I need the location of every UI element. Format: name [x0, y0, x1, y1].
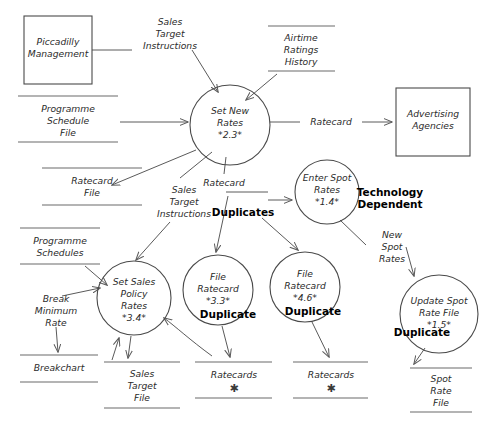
break-minimum-rate-line-2: Minimum [35, 305, 78, 316]
ratecards-right-star-icon: ✱ [326, 382, 335, 395]
set-new-rates-label-line-1: Set New [211, 105, 250, 116]
sales-target-instructions-top-line-2: Target [155, 28, 185, 39]
process-file-ratecard-46[interactable]: File Ratecard *4.6* Duplicate [270, 252, 341, 322]
programme-schedule-file-label-line-1: Programme [41, 103, 95, 114]
break-minimum-rate-line-1: Break [43, 293, 70, 304]
airtime-ratings-history-label-line-1: Airtime [283, 32, 318, 43]
flow-label-sales-target-instructions-top: Sales Target Instructions [143, 16, 197, 51]
flow-label-ratecard-to-agencies: Ratecard [310, 116, 352, 127]
file-ratecard-33-label-line-3: *3.3* [206, 295, 230, 306]
data-store-breakchart[interactable]: Breakchart [20, 355, 98, 382]
flow-enter-spot-rates-down [340, 220, 366, 245]
sales-target-file-label-line-1: Sales [130, 368, 155, 379]
breakchart-label-line-1: Breakchart [34, 362, 85, 373]
sales-target-file-label-line-2: Target [127, 380, 157, 391]
spot-rate-file-label-line-2: Rate [430, 385, 452, 396]
data-store-ratecard-file[interactable]: Ratecard File [42, 168, 142, 205]
flow-duplicates-to-file-ratecard-33 [216, 196, 228, 252]
process-enter-spot-rates[interactable]: Enter Spot Rates *1.4* Technology Depend… [295, 160, 423, 224]
data-store-airtime-ratings-history[interactable]: Airtime Ratings History [268, 26, 335, 71]
dfd-svg: Piccadilly Management Advertising Agenci… [0, 0, 486, 435]
flow-set-sales-policy-to-sales-target-file [128, 336, 131, 358]
programme-schedules-label-line-2: Schedules [36, 247, 83, 258]
enter-spot-rates-label-line-2: Rates [314, 184, 340, 195]
process-update-spot-rate-file[interactable]: Update Spot Rate File *1.5* Duplicate [394, 275, 478, 353]
flow-sales-target-file-to-set-sales-policy [112, 338, 119, 360]
flow-sales-target-instructions-to-set-new-rates [192, 50, 218, 92]
spot-rate-file-label-line-1: Spot [431, 373, 452, 384]
new-spot-rates-line-2: Spot [382, 241, 403, 252]
enter-spot-rates-annotation-line-2: Dependent [357, 198, 422, 210]
set-new-rates-label-line-2: Rates [217, 117, 243, 128]
external-entities: Piccadilly Management Advertising Agenci… [24, 16, 470, 156]
file-ratecard-46-annotation: Duplicate [285, 305, 341, 317]
flow-ratecard-down-stub [224, 157, 226, 174]
flow-sti-mid-to-set-sales-policy [136, 222, 170, 260]
piccadilly-management-label-line-2: Management [28, 48, 89, 59]
flow-airtime-ratings-to-set-new-rates [246, 74, 277, 100]
sales-target-file-label-line-3: File [134, 392, 150, 403]
piccadilly-management-label-line-1: Piccadilly [37, 36, 80, 47]
spot-rate-file-label-line-3: File [433, 397, 449, 408]
advertising-agencies-label-line-1: Advertising [406, 108, 459, 119]
set-sales-policy-rates-label-line-2: Policy [121, 288, 148, 299]
file-ratecard-33-label-line-1: File [210, 271, 226, 282]
new-spot-rates-line-1: New [382, 229, 403, 240]
external-entity-advertising-agencies[interactable]: Advertising Agencies [396, 88, 470, 156]
airtime-ratings-history-label-line-3: History [285, 56, 318, 67]
programme-schedule-file-label-line-2: Schedule [47, 115, 90, 126]
flow-update-spot-rate-file-to-spot-rate-file [414, 348, 425, 364]
ratecards-left-label-line-1: Ratecards [211, 369, 258, 380]
sales-target-instructions-mid-line-3: Instructions [157, 208, 211, 219]
flow-label-ratecard-from-set-new-rates: Ratecard [203, 177, 245, 188]
dfd-canvas: Piccadilly Management Advertising Agenci… [0, 0, 486, 435]
data-store-programme-schedules[interactable]: Programme Schedules [20, 228, 100, 264]
set-sales-policy-rates-label-line-3: Rates [121, 300, 147, 311]
sales-target-instructions-mid-line-1: Sales [172, 184, 197, 195]
external-entity-piccadilly-management[interactable]: Piccadilly Management [24, 16, 92, 84]
file-ratecard-46-label-line-1: File [297, 268, 313, 279]
ratecards-right-label-line-1: Ratecards [308, 369, 355, 380]
file-ratecard-33-annotation: Duplicate [200, 308, 256, 320]
process-set-new-rates[interactable]: Set New Rates *2.3* [190, 85, 270, 165]
flow-label-new-spot-rates: New Spot Rates [379, 229, 405, 264]
update-spot-rate-file-annotation: Duplicate [394, 326, 450, 338]
enter-spot-rates-label-line-1: Enter Spot [303, 172, 352, 183]
process-file-ratecard-33[interactable]: File Ratecard *3.3* Duplicate [183, 255, 256, 325]
sales-target-instructions-top-line-3: Instructions [143, 40, 197, 51]
flow-sti-mid-up [180, 152, 212, 178]
process-set-sales-policy-rates[interactable]: Set Sales Policy Rates *3.4* [97, 261, 171, 335]
flow-label-break-minimum-rate: Break Minimum Rate [35, 293, 78, 328]
airtime-ratings-history-label-line-2: Ratings [284, 44, 319, 55]
data-store-ratecards-left[interactable]: Ratecards ✱ [195, 362, 272, 398]
flow-programme-schedules-to-set-sales-policy [85, 266, 107, 285]
annotations: Duplicates [212, 206, 275, 218]
programme-schedule-file-label-line-3: File [60, 127, 76, 138]
data-store-programme-schedule-file[interactable]: Programme Schedule File [18, 96, 118, 142]
ratecards-left-star-icon: ✱ [229, 382, 238, 395]
file-ratecard-33-label-line-2: Ratecard [197, 283, 239, 294]
sales-target-instructions-mid-line-2: Target [169, 196, 199, 207]
update-spot-rate-file-label-line-2: Rate File [419, 307, 460, 318]
flow-duplicates-to-file-ratecard-46 [262, 218, 298, 250]
break-minimum-rate-line-3: Rate [45, 317, 67, 328]
flow-break-minimum-rate-to-breakchart [56, 327, 58, 352]
flow-label-sales-target-instructions-mid: Sales Target Instructions [157, 184, 211, 219]
advertising-agencies-label-line-2: Agencies [411, 120, 454, 131]
data-store-ratecards-right[interactable]: Ratecards ✱ [293, 362, 368, 398]
set-sales-policy-rates-label-line-4: *3.4* [122, 312, 146, 323]
flow-file-ratecard-33-to-ratecards [222, 326, 230, 357]
data-store-spot-rate-file[interactable]: Spot Rate File [410, 368, 472, 412]
enter-spot-rates-label-line-3: *1.4* [315, 196, 339, 207]
set-sales-policy-rates-label-line-1: Set Sales [113, 276, 156, 287]
duplicates-annotation: Duplicates [212, 206, 275, 218]
ratecard-file-label-line-1: Ratecard [71, 175, 113, 186]
flow-new-spot-rates-to-update-spot-rate-file [406, 247, 414, 276]
file-ratecard-46-label-line-2: Ratecard [284, 280, 326, 291]
flow-ratecards-to-set-sales-policy [164, 318, 212, 356]
sales-target-instructions-top-line-1: Sales [158, 16, 183, 27]
ratecard-file-label-line-2: File [84, 187, 100, 198]
data-store-sales-target-file[interactable]: Sales Target File [104, 362, 180, 408]
enter-spot-rates-annotation-line-1: Technology [357, 186, 424, 198]
set-new-rates-label-line-3: *2.3* [218, 129, 242, 140]
